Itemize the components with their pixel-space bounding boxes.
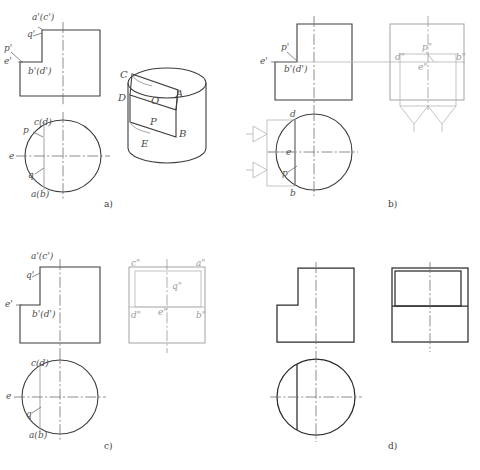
panel-c-label-c-d: c(d) xyxy=(31,358,49,368)
panel-b: p' e' b'(d') d" p" e" b" xyxy=(240,0,480,220)
panel-c-label-q-prime: q' xyxy=(26,270,34,280)
panel-a-label-e-prime: e' xyxy=(4,56,12,66)
panel-c-label-c-dprime: c" xyxy=(131,258,140,268)
panel-a-top-view xyxy=(16,112,110,200)
panel-a-pictorial-label-E: E xyxy=(140,138,149,149)
panel-a-label-c-d: c(d) xyxy=(34,117,52,127)
panel-d-side-view xyxy=(392,262,468,352)
panel-a-top-leaders xyxy=(33,132,44,174)
panel-b-top-view xyxy=(246,110,358,196)
panel-b-front-view xyxy=(275,16,352,110)
panel-b-label-b-dprime: b" xyxy=(456,52,466,62)
panel-b-label-p-dprime: p" xyxy=(422,42,432,52)
figure-sheet: a'(c') q' p' e' b'(d') c(d) p e q a(b) xyxy=(0,0,480,470)
panel-a-label-q-prime: q' xyxy=(27,29,35,39)
panel-a-label-a-b: a(b) xyxy=(31,189,50,199)
panel-b-label-p: p xyxy=(282,168,288,178)
panel-c-label-b-dprime: b" xyxy=(196,310,206,320)
panel-b-label-p-prime: p' xyxy=(281,42,289,52)
panel-a-pictorial-label-O: O xyxy=(151,95,159,106)
panel-d-top-view xyxy=(270,352,362,442)
panel-b-side-view xyxy=(390,16,464,132)
panel-c-label-q-dprime: q" xyxy=(172,281,182,291)
panel-b-label-e-dprime: e" xyxy=(418,62,427,72)
panel-a-label-e: e xyxy=(9,151,14,161)
panel-b-label-b: b xyxy=(290,188,296,198)
panel-c-label-e-dprime: e" xyxy=(158,307,167,317)
panel-a-caption: a) xyxy=(104,199,113,209)
panel-a-label-q: q xyxy=(28,170,34,180)
panel-c-label-e: e xyxy=(6,391,11,401)
panel-c-top-view xyxy=(14,353,106,441)
panel-c-side-view xyxy=(129,259,205,353)
panel-a-pictorial-label-D: D xyxy=(117,92,126,103)
panel-c-drawing: a'(c') q' e' b'(d') c" a" q" d" e" b" xyxy=(0,235,240,470)
panel-b-label-d: d xyxy=(290,109,296,119)
panel-a-pictorial-label-B: B xyxy=(178,128,186,139)
panel-c-label-a-c-prime: a'(c') xyxy=(31,251,54,261)
panel-d-caption: d) xyxy=(388,441,397,451)
panel-b-label-b-d-prime: b'(d') xyxy=(284,64,308,74)
panel-c-label-a-dprime: a" xyxy=(196,258,206,268)
panel-a-label-a-c-prime: a'(c') xyxy=(32,12,55,22)
panel-b-label-e-prime: e' xyxy=(260,56,268,66)
panel-a-pictorial-label-C: C xyxy=(120,69,128,80)
panel-b-caption: b) xyxy=(388,199,397,209)
panel-a-label-p: p xyxy=(23,125,29,135)
panel-c-label-b-d-prime: b'(d') xyxy=(32,309,56,319)
panel-b-label-e: e xyxy=(286,147,291,157)
panel-a-pictorial-label-P: P xyxy=(149,116,157,127)
panel-b-label-d-dprime: d" xyxy=(395,52,405,62)
panel-a-label-b-d-prime: b'(d') xyxy=(28,66,52,76)
panel-a-drawing: a'(c') q' p' e' b'(d') c(d) p e q a(b) xyxy=(0,0,240,220)
panel-a-label-p-prime: p' xyxy=(4,43,12,53)
panel-c-label-e-prime: e' xyxy=(5,299,13,309)
panel-c-label-q: q xyxy=(26,409,32,419)
panel-a: a'(c') q' p' e' b'(d') c(d) p e q a(b) xyxy=(0,0,240,220)
panel-b-drawing: p' e' b'(d') d" p" e" b" xyxy=(240,0,480,220)
panel-c-caption: c) xyxy=(104,441,113,451)
panel-c-label-d-dprime: d" xyxy=(131,310,141,320)
panel-d-drawing xyxy=(240,235,480,470)
panel-a-pictorial-label-A: A xyxy=(175,88,183,99)
panel-c-label-a-b: a(b) xyxy=(29,430,48,440)
panel-c: a'(c') q' e' b'(d') c" a" q" d" e" b" xyxy=(0,235,240,470)
panel-a-pictorial-cylinder xyxy=(128,68,206,163)
panel-b-front-leaders xyxy=(271,52,297,62)
panel-d: d) xyxy=(240,235,480,470)
panel-d-front-view xyxy=(277,262,354,352)
